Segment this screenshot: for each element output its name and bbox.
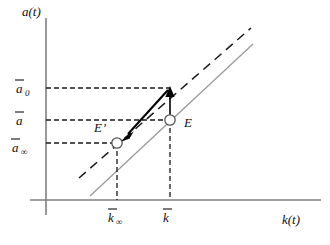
y-tick-label-abar: a bbox=[15, 112, 24, 128]
x-tick-kbar-base: k bbox=[163, 210, 169, 225]
y-tick-abar-base: a bbox=[16, 113, 23, 128]
transition-arrow-shaft bbox=[128, 90, 168, 134]
point-label-E: E bbox=[183, 115, 192, 130]
marker-E-prime bbox=[112, 138, 122, 148]
y-tick-ainf-base: a bbox=[12, 140, 19, 155]
point-label-E-prime: E’ bbox=[93, 120, 106, 135]
x-tick-label-kinfinity: k ∞ bbox=[108, 209, 122, 227]
y-tick-label-a0: a 0 bbox=[15, 80, 30, 98]
guide-lines-group bbox=[46, 88, 170, 200]
y-tick-a0-subscript: 0 bbox=[25, 88, 30, 98]
y-tick-label-ainfinity: a ∞ bbox=[11, 139, 27, 157]
y-tick-ainf-subscript: ∞ bbox=[21, 147, 27, 157]
x-tick-kinf-base: k bbox=[108, 210, 114, 225]
schedule-lines-group bbox=[79, 28, 253, 196]
economics-phase-diagram: a(t) k(t) a 0 a a ∞ k ∞ k E’ E bbox=[0, 0, 330, 245]
x-tick-label-kbar: k bbox=[163, 209, 172, 225]
arrows-group bbox=[118, 86, 175, 143]
x-tick-kinf-subscript: ∞ bbox=[116, 217, 122, 227]
y-tick-a0-base: a bbox=[16, 81, 23, 96]
shifted-schedule-dashed-line bbox=[79, 28, 251, 178]
y-axis-title: a(t) bbox=[22, 4, 41, 19]
marker-E bbox=[165, 115, 175, 125]
x-axis-title: k(t) bbox=[282, 212, 300, 227]
diagram-canvas: a(t) k(t) a 0 a a ∞ k ∞ k E’ E bbox=[0, 0, 330, 245]
